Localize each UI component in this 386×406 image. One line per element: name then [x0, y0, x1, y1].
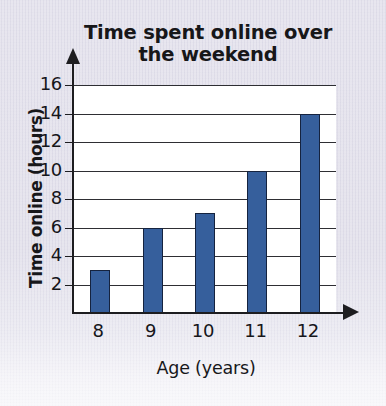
chart-page: Time spent online over the weekend Time …: [0, 0, 386, 406]
x-axis-tick-label: 12: [297, 320, 319, 341]
y-axis-tick: [65, 285, 72, 286]
x-axis-tick-label: 10: [192, 320, 214, 341]
y-axis-tick: [65, 228, 72, 229]
bar: [247, 171, 267, 314]
x-axis-title: Age (years): [72, 358, 340, 378]
x-axis-tick-label: 9: [145, 320, 156, 341]
y-axis-tick-label: 16: [32, 73, 62, 94]
y-axis-tick-label: 8: [32, 187, 62, 208]
arrow-right-icon: [343, 304, 359, 320]
arrow-up-icon: [66, 48, 80, 64]
bar: [195, 213, 215, 313]
y-axis-tick-label: 14: [32, 102, 62, 123]
y-axis-line: [72, 62, 74, 314]
x-axis-tick-labels: 89101112: [72, 320, 334, 350]
y-axis-tick: [65, 85, 72, 86]
y-axis-tick-label: 6: [32, 216, 62, 237]
bar: [300, 114, 320, 314]
chart-title: Time spent online over the weekend: [58, 22, 358, 66]
plot-area: [72, 85, 336, 313]
x-axis-line: [72, 312, 344, 314]
y-axis-tick: [65, 142, 72, 143]
bar: [90, 270, 110, 313]
y-axis-tick: [65, 114, 72, 115]
y-axis-tick: [65, 171, 72, 172]
y-axis-tick-label: 12: [32, 130, 62, 151]
x-axis-tick-label: 8: [93, 320, 104, 341]
gridline: [74, 199, 336, 200]
gridline: [74, 142, 336, 143]
y-axis-tick-label: 2: [32, 273, 62, 294]
y-axis-tick-label: 4: [32, 244, 62, 265]
gridline: [74, 171, 336, 172]
y-axis-tick: [65, 199, 72, 200]
gridline: [74, 85, 336, 86]
x-axis-tick-label: 11: [244, 320, 266, 341]
y-axis-tick-label: 10: [32, 159, 62, 180]
bar: [143, 228, 163, 314]
y-axis-tick-labels: 246810121416: [31, 0, 62, 406]
y-axis-tick: [65, 256, 72, 257]
gridline: [74, 114, 336, 115]
